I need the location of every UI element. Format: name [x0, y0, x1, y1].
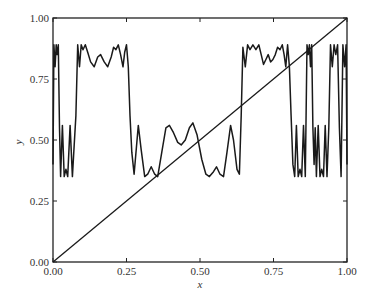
chart: 0.000.250.500.751.000.000.250.500.751.00… — [0, 0, 370, 304]
oscillating-curve — [53, 45, 347, 177]
y-tick-label: 0.00 — [30, 256, 50, 268]
y-tick-label: 0.50 — [30, 134, 50, 146]
x-tick-label: 1.00 — [337, 265, 357, 277]
x-axis-label: x — [197, 278, 203, 290]
y-axis-label: y — [12, 139, 24, 145]
y-tick-label: 0.75 — [30, 73, 50, 85]
y-tick-label: 0.25 — [30, 195, 50, 207]
y-tick-label: 1.00 — [30, 12, 50, 24]
x-tick-label: 0.50 — [190, 265, 210, 277]
x-tick-label: 0.25 — [117, 265, 137, 277]
series-group — [53, 18, 347, 262]
x-tick-label: 0.75 — [264, 265, 284, 277]
